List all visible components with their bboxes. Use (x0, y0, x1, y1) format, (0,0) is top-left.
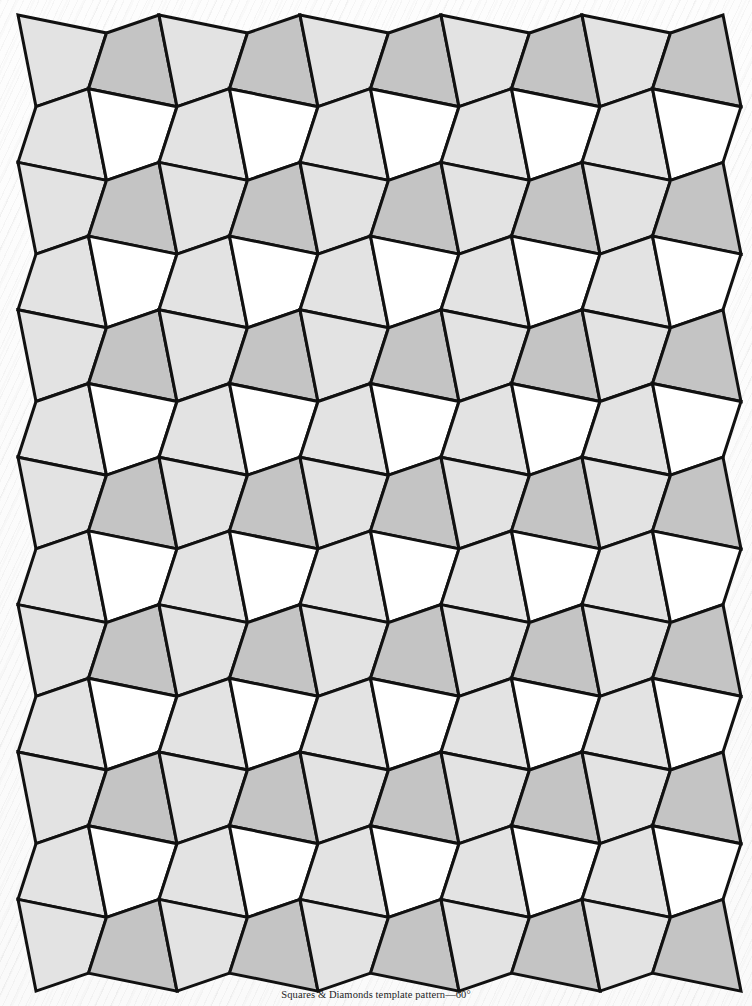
tessellation-canvas (0, 0, 752, 1006)
pattern-caption: Squares & Diamonds template pattern—60° (0, 989, 752, 1000)
tile-group (18, 15, 741, 991)
pattern-page: Squares & Diamonds template pattern—60° (0, 0, 752, 1006)
